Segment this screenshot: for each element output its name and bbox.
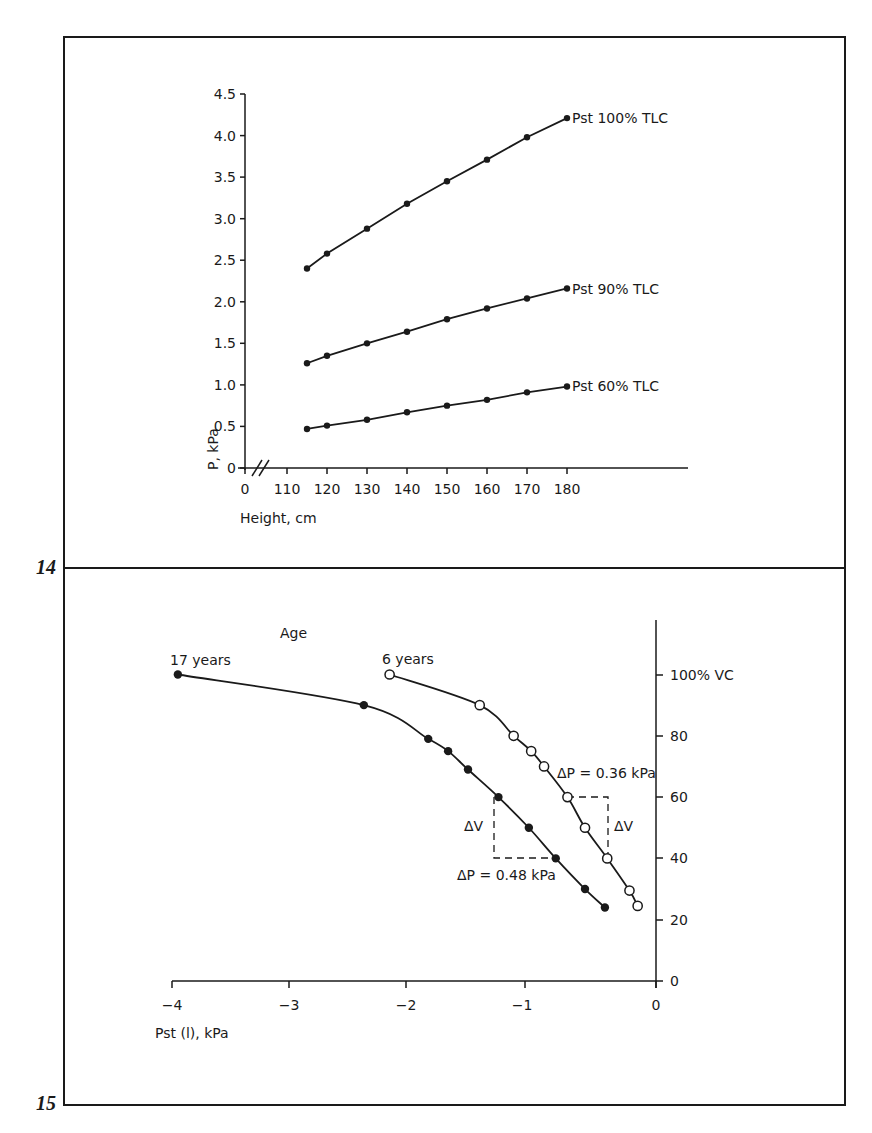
data-point [404,201,410,207]
chart-15-series [174,670,643,912]
x-tick-label: 160 [474,481,501,497]
y-tick-label: 80 [670,728,688,744]
data-point [484,156,490,162]
figure-canvas: 0 0.5 1.0 1.5 2.0 2.5 3.0 3.5 4.0 4.5 0 … [0,0,872,1133]
series-label-60-tlc: Pst 60% TLC [572,378,659,394]
x-tick-labels: 0 110 120 130 140 150 160 170 180 [241,481,581,497]
data-point [364,417,370,423]
data-point [385,670,394,679]
data-point [581,885,589,893]
data-point [552,854,560,862]
x-tick-label: 130 [354,481,381,497]
data-point [524,134,530,140]
data-point [424,735,432,743]
chart-15: 0 20 40 60 80 100% VC −4 −3 −2 −1 0 Pst … [155,620,734,1041]
data-point [324,250,330,256]
data-point [524,295,530,301]
figure-number-14: 14 [36,556,56,579]
data-point [524,389,530,395]
data-point [564,285,570,291]
data-point [525,824,533,832]
data-point [475,701,484,710]
series-label-6-years: 6 years [382,651,434,667]
chart-14: 0 0.5 1.0 1.5 2.0 2.5 3.0 3.5 4.0 4.5 0 … [205,86,688,526]
figure-number-15: 15 [36,1092,56,1115]
data-point [444,402,450,408]
x-axis-label: Pst (l), kPa [155,1025,229,1041]
data-point [625,886,634,895]
data-point [304,265,310,271]
delta-v-label-17-years: ΔV [464,818,484,834]
y-tick-label: 3.5 [214,169,236,185]
x-tick-label: 110 [274,481,301,497]
data-point [364,340,370,346]
y-tick-label: 100% VC [670,667,734,683]
data-point [360,701,368,709]
y-tick-label: 1.0 [214,377,236,393]
chart-title-age: Age [280,625,307,641]
delta-boxes [494,797,608,858]
y-tick-label: 2.0 [214,294,236,310]
data-point [404,409,410,415]
y-tick-label: 4.0 [214,128,236,144]
data-point [539,762,548,771]
data-point [564,115,570,121]
x-tick-label: −1 [512,997,533,1013]
x-tick-label: −4 [162,997,183,1013]
y-tick-label: 60 [670,789,688,805]
x-tick-label: 180 [554,481,581,497]
x-tick-label: 120 [314,481,341,497]
x-tick-label: −2 [396,997,417,1013]
data-point [174,670,182,678]
delta-p-label-17-years: ΔP = 0.48 kPa [457,867,556,883]
y-tick-label: 1.5 [214,335,236,351]
y-tick-labels: 0 0.5 1.0 1.5 2.0 2.5 3.0 3.5 4.0 4.5 [214,86,236,476]
data-point [563,793,572,802]
data-point [580,823,589,832]
figure-frames [64,37,845,1105]
data-point [494,793,502,801]
y-tick-label: 4.5 [214,86,236,102]
data-point [633,901,642,910]
x-tick-label: 150 [434,481,461,497]
x-tick-label: −3 [279,997,300,1013]
series-label-90-tlc: Pst 90% TLC [572,281,659,297]
data-point [404,328,410,334]
data-point [444,178,450,184]
data-point [324,353,330,359]
y-tick-label: 2.5 [214,252,236,268]
data-point [444,316,450,322]
y-tick-label: 0 [227,460,236,476]
y-tick-label: 20 [670,912,688,928]
data-point [527,747,536,756]
data-point [564,383,570,389]
data-point [324,422,330,428]
delta-v-label-6-years: ΔV [614,818,634,834]
y-tick-label: 40 [670,850,688,866]
data-point [509,731,518,740]
data-point [364,225,370,231]
data-point [484,397,490,403]
data-point [464,765,472,773]
chart-14-series [304,115,570,432]
y-tick-label: 0 [670,973,679,989]
x-tick-label: 140 [394,481,421,497]
data-point [484,305,490,311]
x-axis-label: Height, cm [240,510,317,526]
data-point [603,854,612,863]
y-tick-labels: 0 20 40 60 80 100% VC [670,667,734,989]
x-tick-label: 170 [514,481,541,497]
x-tick-labels: −4 −3 −2 −1 0 [162,997,661,1013]
data-point [304,426,310,432]
x-tick-label: 0 [652,997,661,1013]
data-point [444,747,452,755]
delta-p-label-6-years: ΔP = 0.36 kPa [557,765,656,781]
y-tick-label: 3.0 [214,211,236,227]
data-point [304,360,310,366]
y-axis-label: P, kPa [205,428,221,470]
series-line [307,118,567,268]
series-label-17-years: 17 years [170,652,231,668]
data-point [601,903,609,911]
x-tick-label: 0 [241,481,250,497]
series-label-100-tlc: Pst 100% TLC [572,110,668,126]
